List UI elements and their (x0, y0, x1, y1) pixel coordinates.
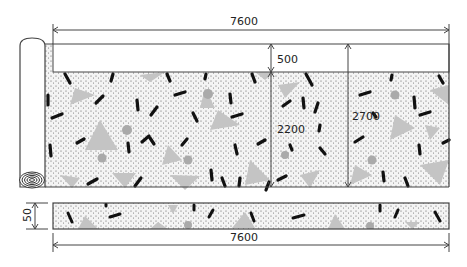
top-width-label: 7600 (230, 15, 258, 28)
top-band-height-label: 500 (277, 53, 298, 66)
wallpaper-diagram: 7600 500 2200 2700 (0, 0, 467, 267)
pattern-height-label: 2200 (277, 123, 305, 136)
top-band (53, 44, 449, 72)
strip-height-label: 50 (21, 208, 34, 222)
total-height-label: 2700 (352, 110, 380, 123)
roll-icon (20, 38, 46, 188)
strip-width-label: 7600 (230, 231, 258, 244)
